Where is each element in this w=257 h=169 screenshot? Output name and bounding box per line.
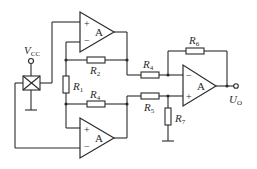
svg-text:−: − <box>186 70 192 81</box>
resistor-r1 <box>63 76 69 93</box>
svg-text:−: − <box>84 141 90 152</box>
op-amp-a2: + − A <box>80 118 114 158</box>
bridge-sensor <box>15 22 80 148</box>
uo-label: UO <box>229 93 242 107</box>
output-terminal <box>234 84 239 89</box>
r2-label: R2 <box>89 64 101 78</box>
svg-text:A: A <box>95 132 103 144</box>
svg-text:+: + <box>84 124 90 135</box>
r6-label: R6 <box>188 34 200 48</box>
r7-label: R7 <box>174 112 186 126</box>
resistor-r2 <box>87 57 105 63</box>
vcc-terminal <box>29 59 34 64</box>
op-amp-a3: − + A <box>183 65 216 106</box>
circuit-diagram: VCC + − A R2 R1 R4 + − A R4 <box>0 0 257 169</box>
resistor-r5 <box>141 93 159 99</box>
svg-text:A: A <box>95 26 103 38</box>
svg-text:−: − <box>84 35 90 46</box>
r1-label: R1 <box>72 80 84 94</box>
op-amp-a1: + − A <box>80 12 114 52</box>
svg-text:+: + <box>186 91 192 102</box>
resistor-r4-upper <box>141 72 159 78</box>
vcc-label: VCC <box>24 44 40 58</box>
resistor-r6 <box>186 48 204 54</box>
svg-text:+: + <box>84 18 90 29</box>
svg-text:A: A <box>197 80 205 92</box>
r4-upper-label: R4 <box>142 58 154 72</box>
r4-lower-label: R4 <box>89 88 101 102</box>
r5-label: R5 <box>143 101 155 115</box>
resistor-r7 <box>165 108 171 125</box>
